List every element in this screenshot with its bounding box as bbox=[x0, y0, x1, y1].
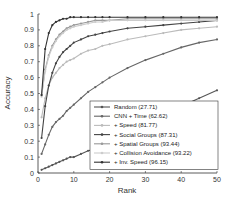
y-tick-label: 0.3 bbox=[24, 122, 34, 129]
data-point bbox=[180, 46, 182, 48]
data-point bbox=[44, 48, 46, 50]
data-point bbox=[55, 72, 57, 74]
data-point bbox=[48, 56, 50, 58]
legend: Random (27.71)CNN + Time (62.62)+ Speed … bbox=[90, 101, 218, 169]
data-point bbox=[101, 21, 103, 23]
data-point bbox=[87, 91, 89, 93]
data-point bbox=[94, 48, 96, 50]
data-point bbox=[69, 27, 71, 29]
x-tick-label: 20 bbox=[106, 176, 114, 183]
data-point bbox=[55, 62, 57, 64]
data-point bbox=[44, 105, 46, 107]
data-point bbox=[162, 16, 164, 18]
data-point bbox=[44, 143, 46, 145]
y-tick-label: 0.1 bbox=[24, 154, 34, 161]
data-point bbox=[101, 16, 103, 18]
x-tick-label: 40 bbox=[177, 176, 185, 183]
x-axis-label: Rank bbox=[118, 186, 138, 195]
x-tick-label: 0 bbox=[36, 176, 40, 183]
data-point bbox=[94, 16, 96, 18]
data-point bbox=[80, 24, 82, 26]
data-point bbox=[80, 53, 82, 55]
data-point bbox=[40, 116, 42, 118]
data-point bbox=[62, 115, 64, 117]
data-point bbox=[51, 46, 53, 48]
y-tick-label: 0.4 bbox=[24, 106, 34, 113]
data-point bbox=[55, 162, 57, 164]
y-tick-label: 0.5 bbox=[24, 90, 34, 97]
data-point bbox=[58, 19, 60, 21]
data-point bbox=[40, 94, 42, 96]
y-tick-label: 0 bbox=[30, 170, 34, 177]
legend-label: + Inv. Speed (96.15) bbox=[114, 159, 168, 165]
data-point bbox=[80, 16, 82, 18]
data-point bbox=[180, 29, 182, 31]
data-point bbox=[87, 150, 89, 152]
data-point bbox=[62, 32, 64, 34]
legend-label: + Collision Avoidance (93.22) bbox=[114, 150, 192, 156]
data-point bbox=[66, 18, 68, 20]
data-point bbox=[109, 43, 111, 45]
accuracy-rank-chart: 0102030405000.10.20.30.40.50.60.70.80.91… bbox=[0, 0, 233, 203]
legend-label: CNN + Time (62.62) bbox=[114, 113, 168, 119]
data-point bbox=[73, 57, 75, 59]
data-point bbox=[69, 107, 71, 109]
data-point bbox=[109, 77, 111, 79]
data-point bbox=[162, 19, 164, 21]
y-tick-label: 1 bbox=[30, 11, 34, 18]
x-tick-label: 30 bbox=[142, 176, 150, 183]
data-point bbox=[73, 42, 75, 44]
data-point bbox=[62, 64, 64, 66]
data-point bbox=[162, 53, 164, 55]
data-point bbox=[198, 97, 200, 99]
data-point bbox=[126, 27, 128, 29]
data-point bbox=[198, 27, 200, 29]
data-point bbox=[58, 56, 60, 58]
y-tick-label: 0.7 bbox=[24, 58, 34, 65]
data-point bbox=[87, 35, 89, 37]
data-point bbox=[126, 67, 128, 69]
y-axis-label: Accuracy bbox=[3, 77, 12, 110]
data-point bbox=[101, 45, 103, 47]
data-point bbox=[180, 22, 182, 24]
data-point bbox=[198, 42, 200, 44]
data-point bbox=[87, 49, 89, 51]
data-point bbox=[216, 89, 218, 91]
data-point bbox=[144, 35, 146, 37]
data-point bbox=[144, 19, 146, 21]
data-point bbox=[51, 164, 53, 166]
data-point bbox=[40, 169, 42, 171]
legend-label: Random (27.71) bbox=[114, 104, 157, 110]
legend-label: + Spatial Groups (93.44) bbox=[114, 141, 180, 147]
data-point bbox=[80, 38, 82, 40]
data-point bbox=[80, 153, 82, 155]
data-point bbox=[109, 16, 111, 18]
data-point bbox=[55, 40, 57, 42]
data-point bbox=[62, 159, 64, 161]
data-point bbox=[58, 67, 60, 69]
data-point bbox=[51, 126, 53, 128]
x-tick-label: 10 bbox=[70, 176, 78, 183]
data-point bbox=[162, 24, 164, 26]
data-point bbox=[40, 137, 42, 139]
data-point bbox=[58, 118, 60, 120]
data-point bbox=[198, 19, 200, 21]
data-point bbox=[144, 16, 146, 18]
data-point bbox=[69, 16, 71, 18]
data-point bbox=[180, 19, 182, 21]
data-point bbox=[87, 22, 89, 24]
data-point bbox=[198, 16, 200, 18]
legend-label: + Speed (81.77) bbox=[114, 122, 157, 128]
data-point bbox=[66, 110, 68, 112]
x-tick-label: 50 bbox=[213, 176, 221, 183]
data-point bbox=[73, 104, 75, 106]
data-point bbox=[40, 153, 42, 155]
legend-label: + Social Groups (87.31) bbox=[114, 132, 178, 138]
y-tick-label: 0.9 bbox=[24, 26, 34, 33]
data-point bbox=[48, 32, 50, 34]
data-point bbox=[51, 72, 53, 74]
data-point bbox=[73, 156, 75, 158]
data-point bbox=[48, 84, 50, 86]
data-point bbox=[51, 24, 53, 26]
y-tick-label: 0.2 bbox=[24, 138, 34, 145]
